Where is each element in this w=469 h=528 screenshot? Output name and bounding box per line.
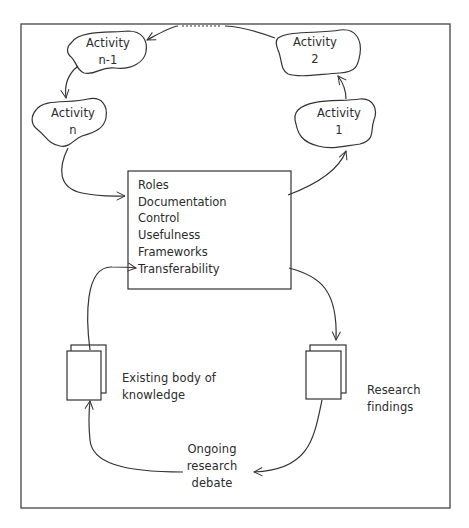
edge-activity2-to-activityn1-head [147, 26, 178, 40]
edge-box-to-findings [289, 268, 336, 340]
ongoing-research-debate-label: Ongoing research debate [182, 441, 242, 492]
box-item-usefulness: Usefulness [138, 227, 227, 244]
activity-1-label: Activity 1 [309, 105, 369, 139]
box-item-frameworks: Frameworks [138, 244, 227, 261]
edge-activity2-to-activityn1 [225, 26, 275, 38]
activity-2-label: Activity 2 [285, 34, 345, 68]
activity-n-1-label: Activity n-1 [78, 35, 138, 69]
existing-knowledge-document-icon [67, 345, 106, 400]
activity-n-label: Activity n [43, 105, 103, 139]
box-item-documentation: Documentation [138, 194, 227, 211]
existing-knowledge-label: Existing body of knowledge [122, 370, 216, 404]
edge-activityn-to-box [62, 148, 125, 196]
edge-findings-to-debate [254, 400, 322, 472]
box-item-roles: Roles [138, 177, 227, 194]
research-findings-document-icon [306, 345, 346, 399]
edge-activityn1-to-activityn [66, 66, 79, 98]
box-item-control: Control [138, 210, 227, 227]
edge-box-to-activity1 [288, 151, 346, 195]
research-findings-label: Research findings [367, 382, 421, 416]
edge-activity1-to-activity2 [338, 76, 346, 99]
edge-debate-to-knowledge [89, 401, 183, 472]
central-box-items: Roles Documentation Control Usefulness F… [138, 177, 227, 277]
box-item-transferability: Transferability [138, 261, 227, 278]
